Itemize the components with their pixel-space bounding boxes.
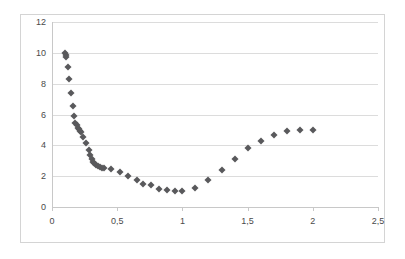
x-tick-2,5	[378, 207, 379, 211]
x-axis-label-0-5: 0,5	[102, 217, 132, 226]
x-axis-label-1: 1	[167, 217, 197, 226]
gridline-y-12	[52, 22, 378, 23]
x-tick-1,5	[248, 207, 249, 211]
x-axis-label-0: 0	[37, 217, 67, 226]
x-axis-label-2: 2	[298, 217, 328, 226]
gridline-y-2	[52, 176, 378, 177]
x-axis-label-1-5: 1,5	[233, 217, 263, 226]
x-tick-0	[52, 207, 53, 211]
gridline-y-6	[52, 115, 378, 116]
x-tick-2	[313, 207, 314, 211]
x-axis-line	[52, 207, 378, 208]
gridline-y-8	[52, 84, 378, 85]
y-axis-label-0: 0	[22, 203, 46, 212]
x-tick-0,5	[117, 207, 118, 211]
chart-container: 024681012 00,511,522,5	[0, 0, 405, 259]
y-axis-label-12: 12	[22, 18, 46, 27]
y-axis-label-2: 2	[22, 172, 46, 181]
gridline-y-10	[52, 53, 378, 54]
gridline-y-4	[52, 145, 378, 146]
y-axis-label-4: 4	[22, 141, 46, 150]
y-axis-label-8: 8	[22, 80, 46, 89]
x-axis-label-2-5: 2,5	[363, 217, 393, 226]
y-axis-label-10: 10	[22, 49, 46, 58]
x-tick-1	[182, 207, 183, 211]
y-axis-line	[52, 22, 53, 208]
y-axis-label-6: 6	[22, 111, 46, 120]
